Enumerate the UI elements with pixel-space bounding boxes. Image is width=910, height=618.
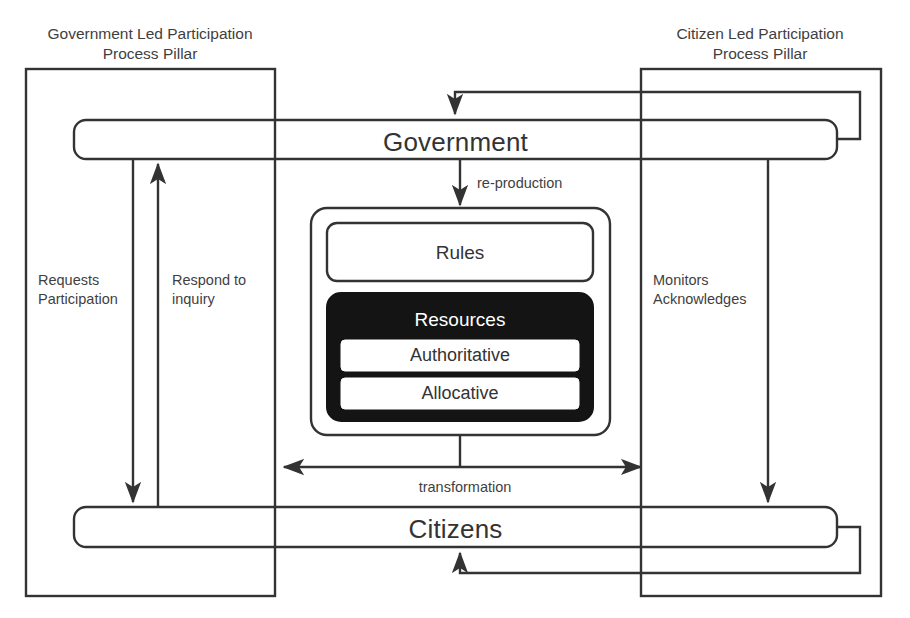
allocative-box-fill (341, 378, 579, 409)
government-pillar-outline (26, 69, 275, 596)
citizens-feedback-loop (460, 527, 860, 573)
diagram-vector-layer (0, 0, 910, 618)
resources-block (327, 293, 593, 421)
authoritative-box-fill (341, 340, 579, 371)
government-bar-outline (74, 120, 837, 159)
diagram-canvas: Government Led Participation Process Pil… (0, 0, 910, 618)
citizen-pillar-outline (641, 69, 881, 596)
rules-box-outline (327, 223, 593, 281)
citizens-bar-outline (74, 507, 837, 547)
government-feedback-loop (455, 92, 860, 139)
